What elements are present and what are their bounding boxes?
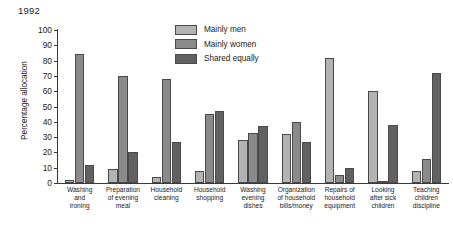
y-axis-tick-mark (54, 91, 58, 92)
y-axis-tick-mark (54, 122, 58, 123)
bar (205, 114, 214, 183)
y-axis-tick-label: 30 (0, 132, 58, 142)
bar (195, 171, 204, 183)
bar (258, 126, 267, 183)
bar (432, 73, 441, 183)
bar (302, 142, 311, 183)
bar-chart: 1992 Percentage allocation 0102030405060… (0, 0, 453, 235)
bar (335, 175, 344, 183)
y-axis-tick-mark (54, 183, 58, 184)
bar (108, 169, 117, 183)
bar (248, 133, 257, 183)
bar (172, 142, 181, 183)
chart-legend: Mainly menMainly womenShared equally (175, 24, 259, 68)
bar (85, 165, 94, 183)
x-axis-category-label-line: discipline (401, 202, 452, 210)
bar-group (368, 30, 397, 183)
x-axis-line (57, 183, 449, 184)
legend-swatch (175, 39, 197, 49)
y-axis-tick-label: 0 (0, 178, 58, 188)
y-axis-tick-label: 90 (0, 40, 58, 50)
bar (368, 91, 377, 183)
legend-swatch (175, 25, 197, 35)
legend-item: Shared equally (175, 53, 259, 64)
bar (378, 181, 387, 183)
y-axis-tick-label: 60 (0, 86, 58, 96)
bar (128, 152, 137, 183)
legend-label: Mainly women (204, 40, 256, 49)
bar (345, 168, 354, 183)
y-axis-tick-mark (54, 168, 58, 169)
x-axis-category-label-line: Teaching (401, 186, 452, 194)
bar-group (325, 30, 354, 183)
bar (215, 111, 224, 183)
bar (282, 134, 291, 183)
legend-label: Mainly men (204, 25, 246, 34)
bar (152, 177, 161, 183)
y-axis-tick-mark (54, 30, 58, 31)
bar (75, 54, 84, 183)
x-axis-category-label-line: children (401, 194, 452, 202)
y-axis-tick-label: 80 (0, 56, 58, 66)
bar (118, 76, 127, 183)
bar-group (412, 30, 441, 183)
legend-item: Mainly women (175, 39, 259, 50)
bar (412, 171, 421, 183)
y-axis-tick-mark (54, 107, 58, 108)
y-axis-tick-mark (54, 76, 58, 77)
bar (388, 125, 397, 183)
legend-swatch (175, 54, 197, 64)
bar-group (108, 30, 137, 183)
x-axis-category-label-line: meal (97, 202, 148, 210)
bar (325, 58, 334, 183)
bar (162, 79, 171, 183)
x-axis-category-label: Teachingchildrendiscipline (401, 186, 452, 211)
bar-group (65, 30, 94, 183)
y-axis-tick-label: 70 (0, 71, 58, 81)
bar (292, 122, 301, 183)
y-axis-tick-label: 40 (0, 117, 58, 127)
bar (238, 140, 247, 183)
bar-group (282, 30, 311, 183)
chart-title: 1992 (18, 5, 40, 16)
bar (422, 159, 431, 183)
y-axis-tick-mark (54, 152, 58, 153)
y-axis-tick-mark (54, 137, 58, 138)
bar (65, 180, 74, 183)
y-axis-tick-mark (54, 45, 58, 46)
legend-item: Mainly men (175, 24, 259, 35)
y-axis-tick-label: 10 (0, 163, 58, 173)
y-axis-tick-label: 20 (0, 147, 58, 157)
y-axis-tick-label: 100 (0, 25, 58, 35)
legend-label: Shared equally (204, 54, 259, 63)
y-axis-tick-label: 50 (0, 102, 58, 112)
y-axis-tick-mark (54, 61, 58, 62)
